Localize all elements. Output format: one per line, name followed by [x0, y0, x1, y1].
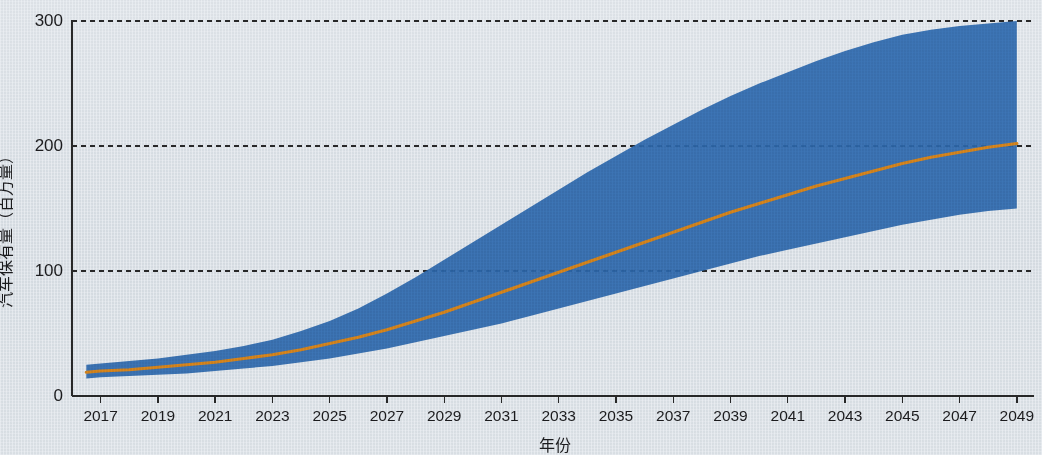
x-tick-label: 2039 [713, 407, 747, 425]
plot-area [0, 0, 1042, 455]
x-tick-label: 2017 [83, 407, 117, 425]
x-tick-label: 2027 [370, 407, 404, 425]
x-tick-label: 2031 [484, 407, 518, 425]
x-tick-label: 2037 [656, 407, 690, 425]
y-tick-label: 300 [35, 11, 63, 31]
x-tick-marks [101, 396, 1017, 403]
x-tick-label: 2025 [312, 407, 346, 425]
x-tick-label: 2023 [255, 407, 289, 425]
x-axis-title: 年份 [539, 432, 571, 455]
x-tick-label: 2029 [427, 407, 461, 425]
x-tick-label: 2035 [599, 407, 633, 425]
x-tick-label: 2021 [198, 407, 232, 425]
x-tick-label: 2043 [828, 407, 862, 425]
x-tick-label: 2019 [141, 407, 175, 425]
car-ownership-projection-chart: 0100200300 20172019202120232025202720292… [0, 0, 1042, 455]
y-tick-label: 200 [35, 136, 63, 156]
x-tick-label: 2033 [541, 407, 575, 425]
y-tick-label: 0 [54, 386, 63, 406]
x-tick-label: 2049 [1000, 407, 1034, 425]
x-tick-label: 2045 [885, 407, 919, 425]
x-tick-label: 2047 [942, 407, 976, 425]
uncertainty-band [86, 21, 1017, 379]
y-axis-title: 汽车保有量（百万量） [0, 148, 16, 308]
x-tick-label: 2041 [771, 407, 805, 425]
y-tick-label: 100 [35, 261, 63, 281]
